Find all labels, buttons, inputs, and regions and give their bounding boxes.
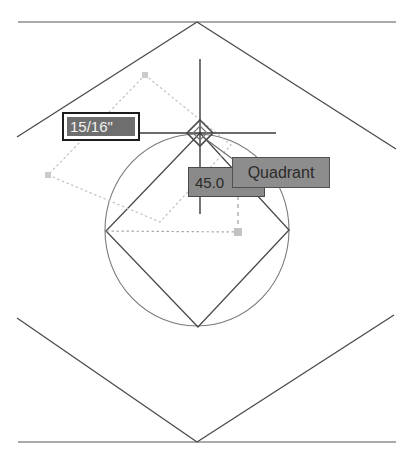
drawing-svg [0,0,412,458]
dotted-construction-square [48,75,231,222]
diamond-edge-lower-right [197,315,394,442]
dimension-input-box[interactable]: 15/16" [62,112,140,141]
tracking-point-marker [234,228,242,236]
diamond-edge-upper-right [197,22,396,149]
construction-grip-left [45,172,51,178]
dimension-input-value[interactable]: 15/16" [67,117,135,136]
diamond-edge-lower-left [17,318,197,442]
construction-grip-top [142,72,148,78]
polar-tracking-line-horizontal [107,231,238,232]
cad-drawing-canvas[interactable]: 15/16" 45.0 Quadrant [0,0,412,458]
osnap-tooltip: Quadrant [232,157,330,188]
